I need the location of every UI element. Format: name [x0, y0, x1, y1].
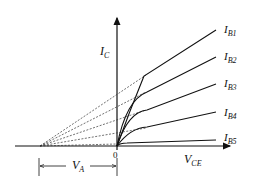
bjt-characteristics-diagram: IC VCE 0 IB1 IB2 IB3 IB4 IB5 VA — [0, 0, 253, 184]
label-ib1: IB1 — [223, 23, 237, 38]
curve-ib1 — [117, 30, 216, 146]
early-voltage-label: VA — [72, 158, 84, 174]
x-axis-label: VCE — [184, 152, 202, 168]
ib-curves — [117, 30, 216, 146]
label-ib5: IB5 — [223, 131, 237, 146]
label-ib3: IB3 — [223, 77, 237, 92]
curve-ib2 — [117, 57, 216, 146]
y-axis-label: IC — [99, 44, 110, 60]
curve-ib5 — [117, 140, 216, 146]
label-ib4: IB4 — [223, 106, 237, 121]
label-ib2: IB2 — [223, 50, 237, 65]
